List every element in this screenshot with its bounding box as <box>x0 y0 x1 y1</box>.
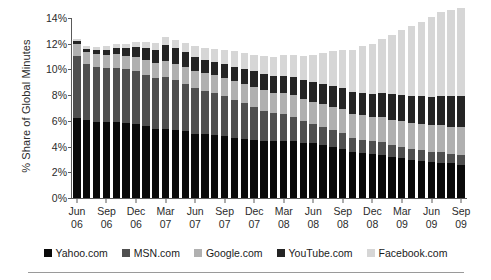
x-axis-tick-label: Mar09 <box>393 205 411 230</box>
stacked-bar[interactable] <box>182 43 189 198</box>
bar-slot <box>387 18 397 198</box>
bar-segment-google-com <box>103 55 110 68</box>
bar-segment-facebook-com <box>378 39 385 93</box>
bar-segment-facebook-com <box>388 35 395 94</box>
bar-segment-msn-com <box>270 113 277 141</box>
stacked-bar[interactable] <box>83 46 90 198</box>
bar-segment-yahoo-com <box>73 118 80 198</box>
bar-segment-msn-com <box>260 111 267 141</box>
bar-segment-google-com <box>408 123 415 149</box>
bar-segment-facebook-com <box>408 26 415 95</box>
stacked-bar[interactable] <box>418 22 425 198</box>
bar-segment-facebook-com <box>359 46 366 92</box>
bar-segment-msn-com <box>300 121 307 143</box>
stacked-bar[interactable] <box>300 56 307 198</box>
bar-segment-facebook-com <box>457 8 464 97</box>
legend-item[interactable]: Yahoo.com <box>44 247 108 259</box>
bar-slot <box>377 18 387 198</box>
y-axis-tick-label: 2% <box>52 167 67 178</box>
stacked-bar[interactable] <box>270 57 277 198</box>
bar-segment-youtube-com <box>388 94 395 120</box>
stacked-bar[interactable] <box>93 47 100 198</box>
bar-segment-google-com <box>221 78 228 97</box>
stacked-bar[interactable] <box>290 55 297 198</box>
bar-segment-msn-com <box>73 56 80 118</box>
bar-slot <box>249 18 259 198</box>
bar-segment-youtube-com <box>428 97 435 125</box>
stacked-bar[interactable] <box>349 50 356 198</box>
bar-segment-facebook-com <box>300 56 307 80</box>
stacked-bar[interactable] <box>457 8 464 198</box>
stacked-bar[interactable] <box>280 55 287 198</box>
bar-segment-msn-com <box>83 64 90 119</box>
stacked-bar[interactable] <box>398 30 405 198</box>
stacked-bar[interactable] <box>329 51 336 198</box>
stacked-bar[interactable] <box>132 42 139 198</box>
stacked-bar[interactable] <box>369 44 376 198</box>
stacked-bar[interactable] <box>172 40 179 198</box>
bar-segment-yahoo-com <box>83 120 90 198</box>
stacked-bar[interactable] <box>250 55 257 198</box>
bar-segment-facebook-com <box>260 56 267 74</box>
bar-segment-yahoo-com <box>280 141 287 198</box>
stacked-bar[interactable] <box>260 56 267 198</box>
bar-slot <box>220 18 230 198</box>
stacked-bar[interactable] <box>201 48 208 198</box>
legend-item[interactable]: MSN.com <box>122 247 180 259</box>
legend-item[interactable]: Google.com <box>194 247 263 259</box>
bar-slot <box>289 18 299 198</box>
stacked-bar[interactable] <box>388 35 395 198</box>
legend-item[interactable]: YouTube.com <box>277 247 353 259</box>
stacked-bar[interactable] <box>241 53 248 198</box>
bar-segment-facebook-com <box>270 57 277 76</box>
stacked-bar[interactable] <box>103 46 110 198</box>
bar-segment-google-com <box>339 109 346 133</box>
bar-slot <box>318 18 328 198</box>
stacked-bar[interactable] <box>122 44 129 198</box>
stacked-bar[interactable] <box>73 39 80 198</box>
bar-segment-yahoo-com <box>142 126 149 198</box>
bar-segment-yahoo-com <box>339 149 346 199</box>
stacked-bar[interactable] <box>162 37 169 198</box>
bar-segment-google-com <box>73 44 80 56</box>
stacked-bar[interactable] <box>309 55 316 198</box>
stacked-bar[interactable] <box>339 50 346 198</box>
bar-segment-google-com <box>211 75 218 93</box>
bar-segment-youtube-com <box>290 77 297 95</box>
stacked-bar[interactable] <box>231 51 238 198</box>
stacked-bar[interactable] <box>378 39 385 198</box>
stacked-bar[interactable] <box>437 12 444 198</box>
x-axis-tick-label: Sep08 <box>334 205 353 230</box>
stacked-bar[interactable] <box>113 44 120 198</box>
bar-segment-msn-com <box>93 67 100 122</box>
stacked-bar[interactable] <box>428 17 435 198</box>
y-axis-tick-label: 14% <box>46 13 67 24</box>
bar-segment-yahoo-com <box>349 152 356 198</box>
stacked-bar[interactable] <box>359 46 366 198</box>
y-axis-title: % Share of Global Minutes <box>20 6 32 206</box>
bar-segment-msn-com <box>113 68 120 123</box>
y-axis-tick-label: 6% <box>52 116 67 127</box>
bar-segment-youtube-com <box>241 69 248 84</box>
bar-segment-youtube-com <box>319 84 326 104</box>
x-axis-tick-mark <box>136 199 137 203</box>
x-axis-tick-label: Sep06 <box>97 205 116 230</box>
bar-slot <box>111 18 121 198</box>
bar-segment-msn-com <box>437 152 444 162</box>
stacked-bar[interactable] <box>221 50 228 198</box>
bar-segment-google-com <box>162 61 169 77</box>
stacked-bar[interactable] <box>447 10 454 198</box>
stacked-bar[interactable] <box>191 46 198 198</box>
stacked-bar[interactable] <box>211 49 218 198</box>
stacked-bar[interactable] <box>319 53 326 198</box>
stacked-bar[interactable] <box>142 42 149 198</box>
bar-slot <box>436 18 446 198</box>
bar-slot <box>151 18 161 198</box>
stacked-bar[interactable] <box>408 26 415 198</box>
bar-segment-msn-com <box>457 155 464 165</box>
plot-area: 0%2%4%6%8%10%12%14% <box>72 18 466 198</box>
legend-item[interactable]: Facebook.com <box>367 247 448 259</box>
bar-segment-yahoo-com <box>231 138 238 198</box>
stacked-bar[interactable] <box>152 43 159 198</box>
bar-slot <box>230 18 240 198</box>
